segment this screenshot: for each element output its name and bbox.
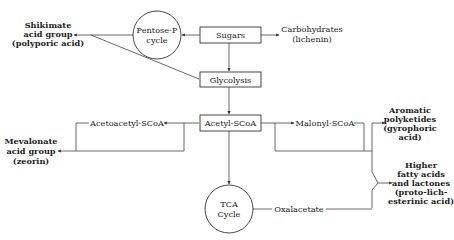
shikimate-line-3: (polyporic acid)	[12, 38, 84, 48]
fatty-line-5: esterinic acid)	[388, 196, 454, 206]
carbohydrates-line-1: Carbohydrates	[281, 24, 343, 34]
node-carbohydrates: Carbohydrates (lichenin)	[281, 24, 343, 44]
edge-fatty-merge	[372, 151, 378, 208]
node-shikimate: Shikimate acid group (polyporic acid)	[12, 20, 84, 48]
mevalonate-line-3: (zeorin)	[13, 156, 50, 166]
acetyl-label: Acetyl-SCoA	[204, 118, 256, 128]
tca-label-2: Cycle	[218, 209, 241, 219]
tca-label-1: TCA	[220, 199, 238, 209]
aromatic-line-4: acid)	[399, 132, 422, 142]
node-oxalacetate: Oxalacetate	[274, 204, 324, 214]
node-higher-fatty-acids: Higher fatty acids and lactones (proto-l…	[388, 160, 454, 206]
edge-malonyl-bracket-right	[354, 123, 364, 151]
glycolysis-label: Glycolysis	[210, 75, 252, 85]
node-tca-cycle: TCA Cycle	[205, 185, 253, 233]
node-acetyl-scoa: Acetyl-SCoA	[200, 115, 261, 131]
pentose-label-2: cycle	[146, 35, 167, 45]
node-malonyl-scoa: Malonyl-SCoA	[296, 118, 355, 128]
pathway-diagram: Sugars Pentose-P cycle Shikimate acid gr…	[0, 0, 454, 240]
pentose-label-1: Pentose-P	[137, 25, 178, 35]
node-pentose-p-cycle: Pentose-P cycle	[133, 11, 181, 59]
mevalonate-line-2: acid group	[6, 146, 55, 156]
mevalonate-line-1: Mevalonate	[4, 136, 57, 146]
node-glycolysis: Glycolysis	[200, 72, 261, 87]
node-aromatic-polyketides: Aromatic polyketides (gyrophoric acid)	[383, 105, 437, 142]
node-acetoacetyl-scoa: Acetoacetyl-SCoA	[89, 118, 164, 128]
carbohydrates-line-2: (lichenin)	[292, 34, 332, 44]
node-sugars: Sugars	[200, 27, 261, 43]
node-mevalonate: Mevalonate acid group (zeorin)	[4, 136, 57, 166]
sugars-label: Sugars	[216, 30, 245, 40]
